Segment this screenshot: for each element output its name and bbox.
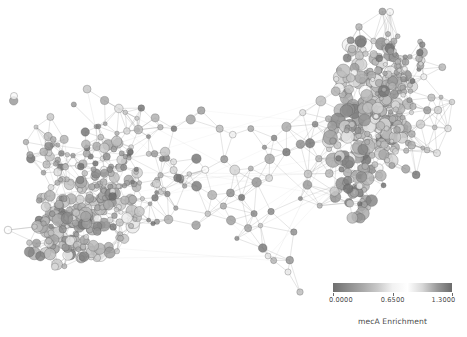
graph-node[interactable] bbox=[389, 162, 395, 168]
graph-node[interactable] bbox=[197, 107, 205, 115]
graph-node[interactable] bbox=[381, 141, 389, 149]
graph-node[interactable] bbox=[409, 110, 413, 114]
graph-node[interactable] bbox=[192, 181, 202, 191]
graph-node[interactable] bbox=[244, 224, 251, 231]
graph-node[interactable] bbox=[381, 183, 386, 188]
graph-node[interactable] bbox=[59, 226, 66, 233]
graph-node[interactable] bbox=[317, 203, 322, 208]
graph-node[interactable] bbox=[124, 128, 131, 135]
graph-node[interactable] bbox=[401, 92, 406, 97]
graph-node[interactable] bbox=[134, 207, 144, 217]
graph-node[interactable] bbox=[389, 116, 396, 123]
graph-node[interactable] bbox=[107, 217, 113, 223]
graph-node[interactable] bbox=[283, 148, 291, 156]
graph-node[interactable] bbox=[268, 208, 274, 214]
graph-node[interactable] bbox=[337, 64, 351, 78]
graph-node[interactable] bbox=[115, 131, 119, 135]
graph-node[interactable] bbox=[147, 218, 151, 222]
graph-node[interactable] bbox=[400, 115, 405, 120]
graph-node[interactable] bbox=[412, 171, 420, 179]
graph-node[interactable] bbox=[345, 85, 354, 94]
graph-node[interactable] bbox=[216, 125, 223, 132]
graph-node[interactable] bbox=[416, 49, 423, 56]
graph-node[interactable] bbox=[394, 126, 401, 133]
graph-node[interactable] bbox=[395, 34, 400, 39]
graph-node[interactable] bbox=[82, 170, 88, 176]
graph-node[interactable] bbox=[312, 121, 318, 127]
graph-node[interactable] bbox=[109, 193, 117, 201]
graph-node[interactable] bbox=[298, 196, 302, 200]
graph-node[interactable] bbox=[74, 232, 79, 237]
graph-node[interactable] bbox=[252, 178, 262, 188]
graph-node[interactable] bbox=[55, 201, 63, 209]
graph-node[interactable] bbox=[374, 67, 381, 74]
graph-node[interactable] bbox=[160, 147, 170, 157]
graph-node[interactable] bbox=[410, 78, 415, 83]
graph-node[interactable] bbox=[388, 110, 392, 114]
graph-node[interactable] bbox=[383, 62, 387, 66]
graph-node[interactable] bbox=[98, 134, 104, 140]
graph-node[interactable] bbox=[123, 110, 128, 115]
graph-node[interactable] bbox=[357, 202, 362, 207]
graph-node[interactable] bbox=[410, 103, 416, 109]
graph-node[interactable] bbox=[408, 141, 416, 149]
graph-node[interactable] bbox=[77, 163, 84, 170]
graph-node[interactable] bbox=[384, 158, 389, 163]
graph-node[interactable] bbox=[356, 172, 367, 183]
graph-node[interactable] bbox=[41, 221, 46, 226]
graph-node[interactable] bbox=[51, 263, 58, 270]
graph-node[interactable] bbox=[265, 154, 275, 164]
graph-node[interactable] bbox=[226, 216, 235, 225]
graph-node[interactable] bbox=[40, 148, 48, 156]
graph-node[interactable] bbox=[137, 181, 142, 186]
graph-node[interactable] bbox=[116, 184, 121, 189]
graph-node[interactable] bbox=[27, 240, 32, 245]
graph-node[interactable] bbox=[152, 194, 159, 201]
graph-node[interactable] bbox=[146, 134, 150, 138]
graph-node[interactable] bbox=[151, 221, 156, 226]
graph-node[interactable] bbox=[103, 200, 113, 210]
graph-node[interactable] bbox=[362, 163, 369, 170]
graph-node[interactable] bbox=[115, 104, 124, 113]
graph-node[interactable] bbox=[339, 167, 344, 172]
graph-node[interactable] bbox=[72, 220, 78, 226]
graph-node[interactable] bbox=[291, 229, 297, 235]
graph-node[interactable] bbox=[71, 102, 76, 107]
graph-node[interactable] bbox=[316, 155, 323, 162]
graph-node[interactable] bbox=[439, 95, 443, 99]
graph-node[interactable] bbox=[151, 114, 159, 122]
graph-node[interactable] bbox=[356, 183, 363, 190]
graph-node[interactable] bbox=[152, 180, 160, 188]
graph-node[interactable] bbox=[76, 247, 81, 252]
graph-node[interactable] bbox=[81, 211, 91, 221]
graph-node[interactable] bbox=[134, 125, 143, 134]
graph-node[interactable] bbox=[251, 210, 257, 216]
graph-node[interactable] bbox=[331, 87, 340, 96]
graph-node[interactable] bbox=[445, 125, 452, 132]
graph-node[interactable] bbox=[65, 152, 70, 157]
graph-node[interactable] bbox=[416, 120, 425, 129]
graph-node[interactable] bbox=[304, 170, 312, 178]
graph-node[interactable] bbox=[128, 223, 133, 228]
graph-node[interactable] bbox=[325, 170, 333, 178]
graph-node[interactable] bbox=[182, 184, 187, 189]
graph-node[interactable] bbox=[27, 152, 33, 158]
graph-node[interactable] bbox=[330, 187, 339, 196]
graph-node[interactable] bbox=[334, 76, 339, 81]
graph-node[interactable] bbox=[88, 240, 99, 251]
graph-node[interactable] bbox=[24, 247, 34, 257]
graph-node[interactable] bbox=[375, 170, 386, 181]
graph-node[interactable] bbox=[173, 206, 178, 211]
graph-node[interactable] bbox=[303, 180, 312, 189]
graph-node[interactable] bbox=[93, 161, 99, 167]
graph-node[interactable] bbox=[192, 221, 201, 230]
graph-node[interactable] bbox=[48, 184, 54, 190]
graph-node[interactable] bbox=[53, 162, 58, 167]
graph-node[interactable] bbox=[61, 196, 67, 202]
graph-node[interactable] bbox=[355, 127, 362, 134]
graph-node[interactable] bbox=[402, 66, 407, 71]
graph-node[interactable] bbox=[133, 217, 137, 221]
graph-node[interactable] bbox=[118, 235, 124, 241]
graph-node[interactable] bbox=[4, 226, 12, 234]
graph-node[interactable] bbox=[379, 8, 386, 15]
